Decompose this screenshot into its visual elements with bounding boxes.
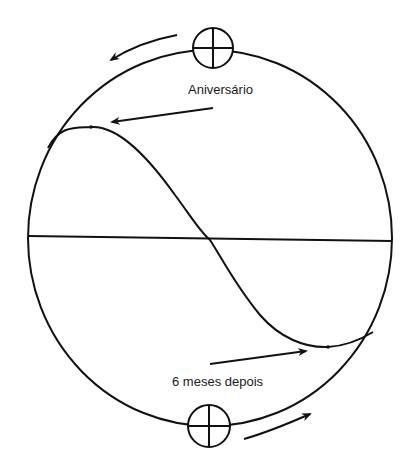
six-months-pointer-arrow-icon bbox=[210, 351, 306, 364]
top-sun-symbol-icon bbox=[193, 28, 233, 68]
aniversario-pointer-arrow-icon bbox=[112, 108, 213, 122]
trough-dot bbox=[326, 345, 330, 349]
bottom-sun-symbol-icon bbox=[188, 405, 230, 447]
orbit-diagram: Aniversário 6 meses depois bbox=[0, 0, 416, 476]
bottom-direction-arrow-icon bbox=[244, 414, 310, 439]
six-months-label: 6 meses depois bbox=[172, 374, 264, 389]
peak-dot bbox=[89, 125, 93, 129]
aniversario-label: Aniversário bbox=[188, 82, 253, 97]
